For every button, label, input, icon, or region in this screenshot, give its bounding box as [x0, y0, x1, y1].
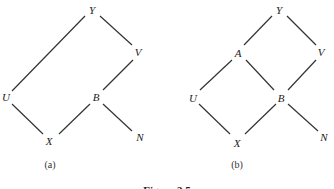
node-a-U: U: [2, 92, 10, 103]
edge-a-B-N: [103, 104, 132, 131]
figure-caption: Figure 3.5: [143, 185, 190, 189]
subfigure-label-a: (a): [44, 160, 55, 170]
node-b-U: U: [189, 93, 197, 104]
edge-b-U-X: [199, 104, 230, 134]
edge-b-B-X: [245, 104, 276, 134]
node-a-N: N: [136, 132, 143, 143]
node-a-B: B: [93, 92, 100, 103]
subfigure-label-b: (b): [231, 160, 243, 170]
node-a-X: X: [46, 136, 53, 147]
edge-a-Y-V: [100, 16, 132, 45]
edge-a-B-X: [59, 104, 90, 134]
node-b-B: B: [278, 93, 285, 104]
edge-b-B-N: [288, 104, 318, 131]
node-b-N: N: [320, 132, 327, 143]
edge-b-A-U: [200, 60, 232, 90]
edge-a-V-B: [103, 60, 133, 90]
node-a-Y: Y: [89, 5, 95, 16]
edge-b-Y-A: [244, 16, 272, 45]
node-b-A: A: [235, 48, 242, 59]
edge-b-Y-V: [287, 16, 316, 45]
node-b-V: V: [318, 47, 325, 58]
node-a-V: V: [135, 47, 142, 58]
edge-b-A-B: [246, 60, 274, 90]
edge-a-U-X: [12, 104, 43, 134]
edge-a-Y-U: [12, 16, 85, 91]
node-b-X: X: [234, 138, 241, 149]
edge-b-V-B: [288, 60, 316, 90]
node-b-Y: Y: [276, 5, 282, 16]
